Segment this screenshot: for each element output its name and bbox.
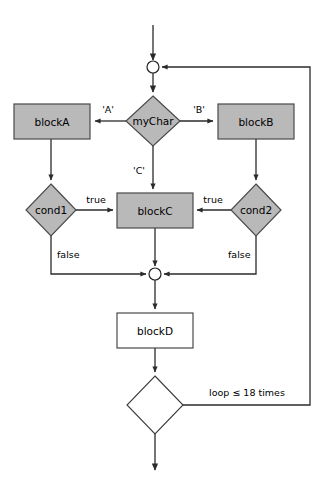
node-blockc: blockC: [117, 193, 193, 228]
flowchart-canvas: myChar blockA blockB cond1 blockC cond2: [0, 0, 324, 481]
node-blocka: blockA: [14, 104, 90, 139]
edge-label-case-b: 'B': [193, 104, 205, 115]
edge-label-case-a: 'A': [102, 104, 114, 115]
connector-merge-top: [147, 61, 159, 73]
node-blockb: blockB: [218, 104, 294, 139]
blocka-label: blockA: [34, 116, 70, 128]
edge-label-false-right: false: [228, 249, 251, 260]
node-cond2: cond2: [231, 184, 281, 236]
node-blockd: blockD: [117, 313, 193, 348]
node-loop-test: [127, 376, 183, 434]
cond1-label: cond1: [35, 204, 67, 216]
blockd-label: blockD: [137, 325, 173, 337]
connector-merge-bottom: [149, 268, 161, 280]
node-mychar: myChar: [126, 96, 180, 146]
edge-label-false-left: false: [57, 249, 80, 260]
edge-label-loop-condition: loop ≤ 18 times: [209, 387, 285, 398]
edge-label-true-left: true: [86, 194, 106, 205]
blockc-label: blockC: [137, 205, 172, 217]
blockb-label: blockB: [238, 116, 273, 128]
cond2-label: cond2: [240, 204, 272, 216]
loop-test-diamond-shape: [127, 376, 183, 434]
mychar-label: myChar: [132, 115, 174, 127]
edge-label-true-right: true: [203, 194, 223, 205]
edge-label-case-c: 'C': [133, 165, 145, 176]
node-cond1: cond1: [26, 184, 76, 236]
flowchart-diagram: myChar blockA blockB cond1 blockC cond2: [0, 0, 324, 481]
